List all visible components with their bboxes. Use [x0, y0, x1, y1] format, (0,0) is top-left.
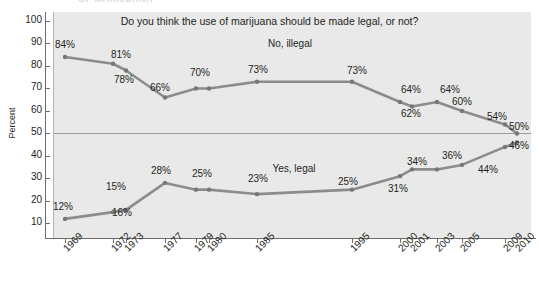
data-label-no-illegal: 50%: [509, 121, 529, 132]
data-point: [163, 181, 167, 185]
y-tick-label: 30: [12, 171, 42, 182]
data-point: [207, 86, 211, 90]
y-tick-mark: [45, 111, 50, 112]
y-tick-mark: [45, 156, 50, 157]
data-point: [124, 68, 128, 72]
y-tick-label: 50: [12, 126, 42, 137]
y-tick-mark: [45, 178, 50, 179]
data-label-no-illegal: 78%: [114, 74, 134, 85]
data-point: [503, 122, 507, 126]
data-label-no-illegal: 66%: [150, 82, 170, 93]
marijuana-legalization-line-chart: Percent 102030405060708090100 1969197219…: [0, 0, 539, 283]
y-tick-mark: [45, 223, 50, 224]
data-point: [63, 217, 67, 221]
y-tick-mark: [45, 88, 50, 89]
data-label-yes-legal: 36%: [442, 150, 462, 161]
data-label-no-illegal: 64%: [401, 84, 421, 95]
data-point: [435, 167, 439, 171]
data-point: [111, 62, 115, 66]
data-label-yes-legal: 23%: [248, 173, 268, 184]
y-axis-title: Percent: [7, 93, 17, 153]
data-point: [63, 55, 67, 59]
data-label-no-illegal: 73%: [248, 64, 268, 75]
data-label-no-illegal: 81%: [111, 49, 131, 60]
data-point: [515, 131, 519, 135]
data-label-no-illegal: 73%: [347, 65, 367, 76]
data-label-no-illegal: 84%: [55, 39, 75, 50]
y-axis-line: [45, 12, 46, 239]
data-label-yes-legal: 16%: [112, 207, 132, 218]
data-point: [350, 187, 354, 191]
chart-title: Do you think the use of marijuana should…: [121, 15, 419, 27]
data-label-yes-legal: 34%: [407, 156, 427, 167]
y-tick-label: 70: [12, 81, 42, 92]
y-tick-label: 60: [12, 104, 42, 115]
data-label-yes-legal: 15%: [106, 181, 126, 192]
y-tick-label: 20: [12, 194, 42, 205]
data-label-no-illegal: 64%: [440, 84, 460, 95]
y-tick-mark: [45, 201, 50, 202]
data-point: [255, 192, 259, 196]
y-tick-label: 80: [12, 59, 42, 70]
data-label-yes-legal: 25%: [192, 168, 212, 179]
data-point: [460, 109, 464, 113]
y-tick-label: 90: [12, 36, 42, 47]
y-tick-label: 100: [12, 14, 42, 25]
data-point: [163, 95, 167, 99]
data-point: [194, 86, 198, 90]
data-point: [350, 80, 354, 84]
data-point: [207, 187, 211, 191]
data-point: [398, 100, 402, 104]
data-point: [460, 163, 464, 167]
y-tick-mark: [45, 66, 50, 67]
y-tick-mark: [45, 21, 50, 22]
series-line-no-illegal: [65, 57, 517, 133]
data-point: [398, 174, 402, 178]
data-point: [435, 100, 439, 104]
series-label: No, illegal: [268, 38, 312, 49]
data-label-yes-legal: 31%: [388, 183, 408, 194]
data-point: [255, 80, 259, 84]
data-label-yes-legal: 46%: [509, 140, 529, 151]
data-point: [194, 187, 198, 191]
data-label-yes-legal: 28%: [151, 165, 171, 176]
data-label-no-illegal: 62%: [401, 108, 421, 119]
y-tick-mark: [45, 133, 50, 134]
y-tick-mark: [45, 43, 50, 44]
data-point: [503, 145, 507, 149]
series-label: Yes, legal: [273, 163, 316, 174]
data-label-no-illegal: 54%: [487, 111, 507, 122]
data-label-yes-legal: 44%: [478, 164, 498, 175]
data-point: [410, 167, 414, 171]
data-label-yes-legal: 25%: [338, 176, 358, 187]
data-label-yes-legal: 12%: [53, 201, 73, 212]
data-label-no-illegal: 70%: [190, 67, 210, 78]
y-tick-label: 40: [12, 149, 42, 160]
y-tick-label: 10: [12, 216, 42, 227]
data-label-no-illegal: 60%: [452, 96, 472, 107]
